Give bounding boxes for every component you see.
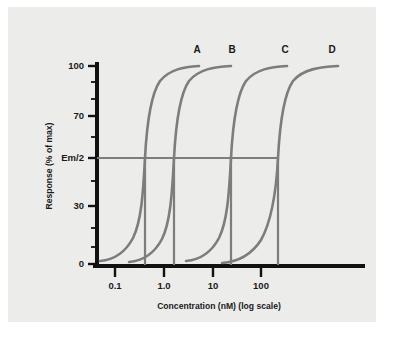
x-tick-label-0.1: 0.1 (108, 280, 122, 291)
curve-label-d: D (328, 44, 335, 55)
x-axis-title: Concentration (nM) (log scale) (157, 301, 281, 311)
curve-label-b: B (228, 44, 235, 55)
curve-label-a: A (193, 44, 200, 55)
figure-root: 100 70 Em/2 30 0 0.1 1.0 10 100 Concentr… (0, 0, 396, 342)
curve-label-c: C (281, 44, 288, 55)
x-tick-label-1.0: 1.0 (157, 280, 170, 291)
dose-curve-c (186, 66, 287, 261)
y-tick-label-0: 0 (79, 258, 84, 269)
y-tick-label-30: 30 (73, 200, 84, 211)
dose-curve-a (100, 66, 199, 261)
y-axis-title: Response (% of max) (44, 122, 54, 209)
x-tick-label-100: 100 (253, 280, 269, 291)
y-tick-label-em2: Em/2 (61, 152, 84, 163)
dose-response-chart: 100 70 Em/2 30 0 0.1 1.0 10 100 Concentr… (0, 0, 396, 342)
x-tick-label-10: 10 (208, 280, 219, 291)
y-tick-label-100: 100 (68, 60, 84, 71)
y-tick-label-70: 70 (73, 110, 84, 121)
